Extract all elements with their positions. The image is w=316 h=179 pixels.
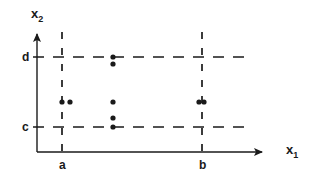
data-point [110,54,115,59]
y-axis-title-subscript: 2 [38,14,43,24]
x-axis-title: x1 [286,143,298,160]
x-tick-label-a: a [59,159,66,171]
axes-group [37,34,262,152]
y-tick-label-c: c [22,121,29,133]
data-point [59,99,64,104]
x-axis-title-subscript: 1 [293,150,298,160]
data-point [110,124,115,129]
data-point [67,99,72,104]
dashed-guide-lines [33,32,248,152]
data-point [201,99,206,104]
y-axis-title: x2 [31,7,43,24]
data-point [196,99,201,104]
y-tick-label-d: d [22,51,29,63]
scatter-diagram: x2 x1 d c a b [0,0,316,179]
x-tick-label-b: b [199,159,206,171]
diagram-canvas [0,0,316,179]
data-point [110,115,115,120]
data-point [110,99,115,104]
data-point [110,61,115,66]
data-points-group [59,54,206,129]
